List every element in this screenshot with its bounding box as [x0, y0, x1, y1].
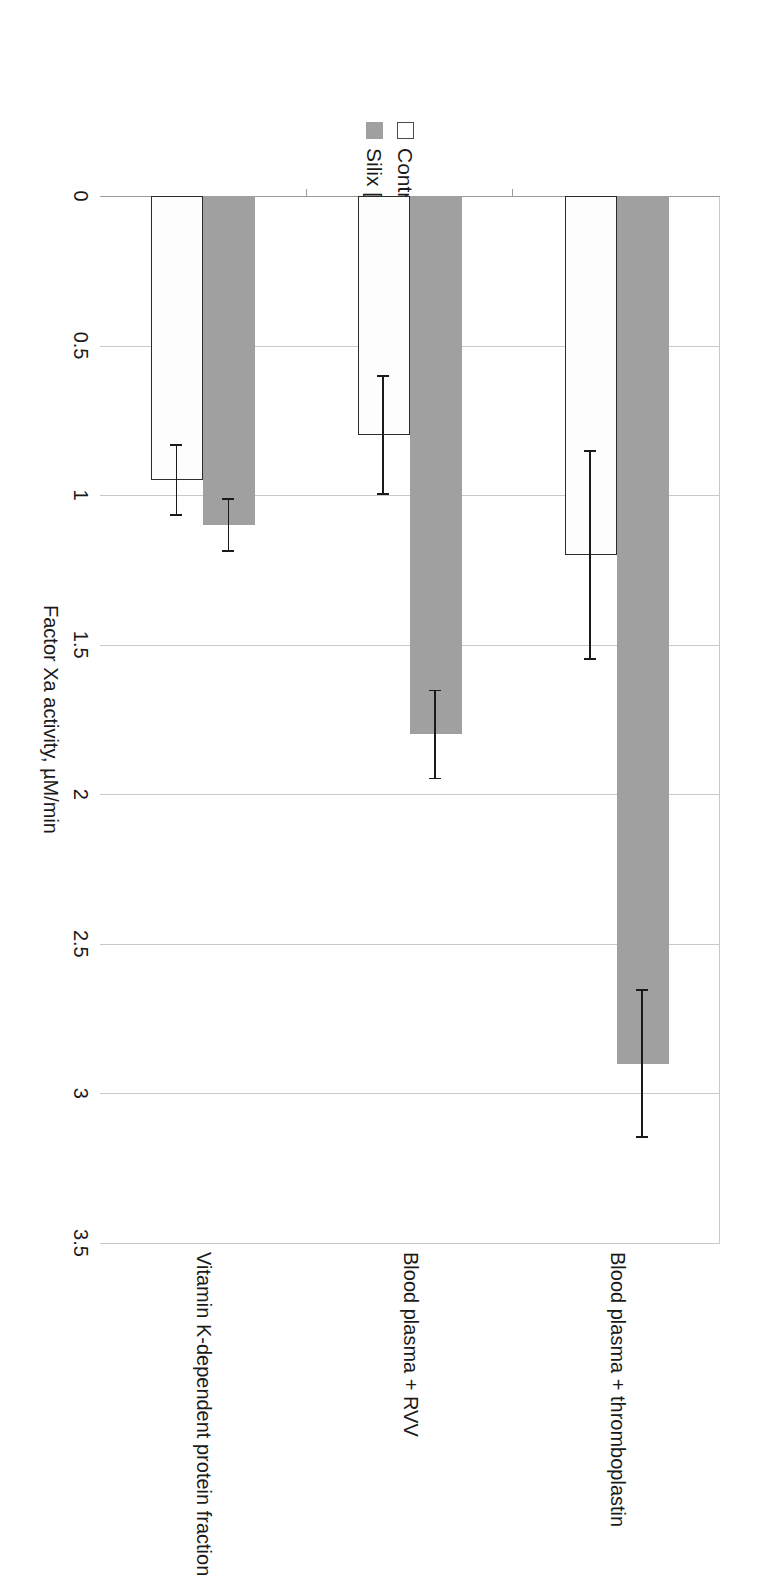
bar-silix [203, 196, 255, 525]
error-bar-line [434, 690, 436, 780]
bar-control [565, 196, 617, 555]
gridline [100, 1243, 720, 1244]
error-bar-cap-high [584, 658, 596, 660]
error-bar-cap-high [429, 778, 441, 780]
bar-silix [617, 196, 669, 1064]
bar-silix [410, 196, 462, 734]
category-tick [306, 189, 307, 196]
value-tick-label: 3 [69, 1088, 92, 1099]
error-bar-line [176, 444, 178, 516]
value-tick-label: 2.5 [69, 930, 92, 958]
bar-control [151, 196, 203, 480]
value-axis-tick-labels: 00.511.522.533.5 [64, 196, 92, 1243]
error-bar-line [589, 450, 591, 659]
error-bar-cap-low [636, 989, 648, 991]
value-tick-label: 1.5 [69, 631, 92, 659]
value-tick-label: 3.5 [69, 1229, 92, 1257]
value-tick-label: 0.5 [69, 332, 92, 360]
value-tick-label: 2 [69, 789, 92, 800]
category-label: Blood plasma + RVV [399, 1252, 422, 1437]
value-tick-label: 0 [69, 190, 92, 201]
category-tick [512, 189, 513, 196]
filled-gray-square-swatch-icon [366, 122, 383, 139]
error-bar-cap-high [170, 514, 182, 516]
plot-area [100, 196, 720, 1243]
value-axis-title: Factor Xa activity, µM/min [39, 196, 62, 1243]
category-label: Vitamin K-dependent protein fraction [192, 1252, 215, 1576]
error-bar-cap-low [222, 498, 234, 500]
error-bar-cap-low [377, 375, 389, 377]
open-square-swatch-icon [397, 122, 414, 139]
error-bar-cap-low [429, 690, 441, 692]
category-label: Blood plasma + thromboplastin [605, 1252, 628, 1527]
gridline [100, 1093, 720, 1094]
error-bar-line [382, 375, 384, 495]
error-bar-cap-high [377, 493, 389, 495]
bar-control [358, 196, 410, 435]
error-bar-line [228, 498, 230, 552]
error-bar-cap-high [222, 550, 234, 552]
value-tick-label: 1 [69, 490, 92, 501]
error-bar-cap-low [584, 450, 596, 452]
error-bar-line [641, 989, 643, 1139]
plot-top-border [719, 196, 720, 1243]
error-bar-cap-high [636, 1136, 648, 1138]
error-bar-cap-low [170, 444, 182, 446]
